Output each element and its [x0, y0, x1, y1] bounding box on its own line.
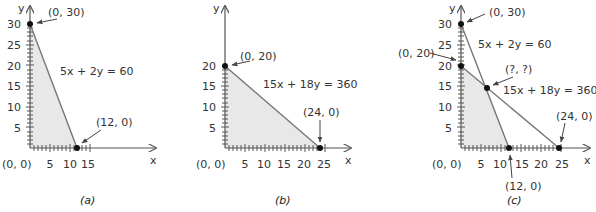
svg-text:10: 10	[257, 158, 271, 171]
svg-text:10: 10	[438, 101, 452, 114]
point-0-20-c	[458, 63, 464, 69]
svg-text:20: 20	[202, 60, 216, 73]
panel-b: 5 10 15 20 5 10 15 20 25 (0, 0) y x (0, …	[196, 2, 357, 207]
svg-text:30: 30	[438, 18, 452, 31]
caption-c: (c)	[507, 194, 522, 207]
panel-c: 5 10 15 20 25 30 5 10 15 20 25 (0, 0) y …	[398, 2, 596, 207]
point-intersection-c	[484, 85, 490, 91]
svg-text:5: 5	[47, 158, 54, 171]
y-axis-label-a: y	[18, 2, 25, 15]
y-axis-label-c: y	[449, 2, 456, 15]
equation-label-1-c: 5x + 2y = 60	[478, 38, 551, 51]
caption-a: (a)	[80, 194, 95, 207]
svg-text:25: 25	[555, 158, 569, 171]
origin-label-b: (0, 0)	[196, 158, 226, 171]
point-12-0-c	[506, 145, 512, 151]
x-tick-labels-c: 5 10 15 20 25	[478, 158, 570, 171]
point-label-0-30-c: (0, 30)	[489, 6, 526, 19]
point-12-0-a	[74, 145, 80, 151]
svg-text:25: 25	[7, 39, 21, 52]
svg-text:10: 10	[63, 158, 77, 171]
svg-text:5: 5	[14, 122, 21, 135]
origin-label-a: (0, 0)	[2, 158, 32, 171]
x-tick-labels-b: 5 10 15 20 25	[242, 158, 332, 171]
x-axis-label-c: x	[584, 154, 591, 167]
svg-text:15: 15	[438, 80, 452, 93]
svg-text:25: 25	[317, 158, 331, 171]
svg-text:15: 15	[81, 158, 95, 171]
svg-text:15: 15	[202, 80, 216, 93]
arrow-0-30-c	[467, 14, 485, 22]
point-24-0-b	[317, 145, 323, 151]
svg-text:5: 5	[242, 158, 249, 171]
svg-text:20: 20	[534, 158, 548, 171]
point-label-24-0-b: (24, 0)	[303, 106, 340, 119]
y-tick-labels-b: 5 10 15 20	[202, 60, 216, 135]
origin-label-c: (0, 0)	[432, 158, 462, 171]
svg-text:5: 5	[209, 122, 216, 135]
x-ticks-a	[34, 144, 90, 152]
svg-text:15: 15	[7, 80, 21, 93]
point-24-0-c	[556, 145, 562, 151]
point-0-30-a	[27, 21, 33, 27]
arrow-12-0-c	[510, 155, 512, 178]
svg-text:10: 10	[202, 101, 216, 114]
y-tick-labels-a: 5 10 15 20 25 30	[7, 18, 21, 135]
point-label-0-20-b: (0, 20)	[240, 50, 277, 63]
arrow-24-0-c	[561, 123, 565, 142]
point-label-12-0-a: (12, 0)	[96, 116, 133, 129]
y-axis-label-b: y	[213, 2, 220, 15]
panel-a: 5 10 15 20 25 30 5 10 15 (0, 0) y x (0, …	[2, 2, 157, 207]
svg-text:20: 20	[438, 60, 452, 73]
y-ticks-c	[457, 28, 465, 144]
equation-label-a: 5x + 2y = 60	[60, 65, 133, 78]
equation-label-b: 15x + 18y = 360	[263, 78, 357, 91]
svg-text:15: 15	[277, 158, 291, 171]
svg-text:15: 15	[515, 158, 529, 171]
point-label-intersection-c: (?, ?)	[505, 63, 532, 76]
svg-text:10: 10	[7, 101, 21, 114]
point-0-30-c	[458, 21, 464, 27]
svg-text:20: 20	[7, 60, 21, 73]
svg-text:25: 25	[438, 39, 452, 52]
svg-text:30: 30	[7, 18, 21, 31]
arrow-12-0-a	[82, 130, 101, 143]
y-ticks-a	[26, 28, 34, 144]
svg-text:5: 5	[445, 122, 452, 135]
svg-text:10: 10	[493, 158, 507, 171]
point-label-0-20-c: (0, 20)	[398, 47, 435, 60]
figure: 5 10 15 20 25 30 5 10 15 (0, 0) y x (0, …	[0, 0, 596, 212]
svg-text:5: 5	[478, 158, 485, 171]
x-axis-label-a: x	[150, 154, 157, 167]
caption-b: (b)	[275, 194, 291, 207]
point-0-20-b	[222, 63, 228, 69]
svg-text:20: 20	[297, 158, 311, 171]
equation-label-2-c: 15x + 18y = 360	[503, 84, 596, 97]
point-label-24-0-c: (24, 0)	[556, 110, 593, 123]
feasible-region-c	[461, 66, 509, 148]
point-label-0-30-a: (0, 30)	[48, 6, 85, 19]
x-axis-label-b: x	[345, 154, 352, 167]
x-tick-labels-a: 5 10 15	[47, 158, 96, 171]
arrow-0-30-a	[37, 19, 57, 23]
y-tick-labels-c: 5 10 15 20 25 30	[438, 18, 452, 135]
point-label-12-0-c: (12, 0)	[505, 180, 542, 193]
